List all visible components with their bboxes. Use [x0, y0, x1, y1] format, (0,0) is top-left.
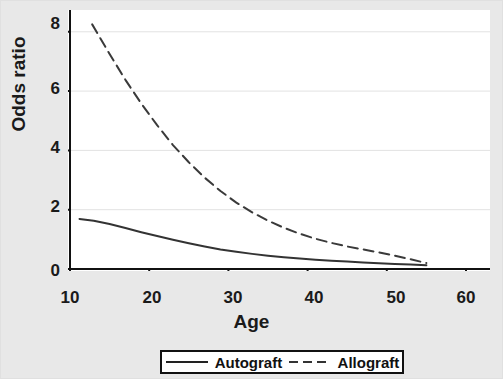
chart-legend: Autograft Allograft	[160, 350, 404, 374]
series-line-autograft	[80, 219, 427, 265]
legend-swatch-solid-icon	[165, 357, 209, 367]
y-tick-label-6: 6	[34, 79, 60, 99]
x-tick-label-30: 30	[213, 288, 253, 308]
plot-area	[68, 10, 490, 271]
series-line-allograft	[92, 24, 426, 263]
y-tick-label-0: 0	[34, 261, 60, 281]
chart-figure: 0 2 4 6 8 10 20 30 40 50 60 Odds ratio A…	[0, 0, 503, 379]
y-axis-title: Odds ratio	[8, 4, 32, 164]
x-tick-label-50: 50	[376, 288, 416, 308]
legend-label-autograft: Autograft	[215, 354, 283, 371]
legend-swatch-dashed-icon	[288, 357, 332, 367]
x-axis-title: Age	[0, 311, 503, 333]
y-tick-label-8: 8	[34, 14, 60, 34]
x-tick-label-60: 60	[446, 288, 486, 308]
legend-entry-allograft: Allograft	[288, 354, 400, 371]
y-tick-label-2: 2	[34, 197, 60, 217]
legend-label-allograft: Allograft	[338, 354, 400, 371]
chart-canvas	[68, 10, 490, 271]
x-tick-label-40: 40	[294, 288, 334, 308]
x-tick-label-20: 20	[132, 288, 172, 308]
x-tick-label-10: 10	[50, 288, 90, 308]
legend-entry-autograft: Autograft	[165, 354, 283, 371]
y-tick-label-4: 4	[34, 138, 60, 158]
